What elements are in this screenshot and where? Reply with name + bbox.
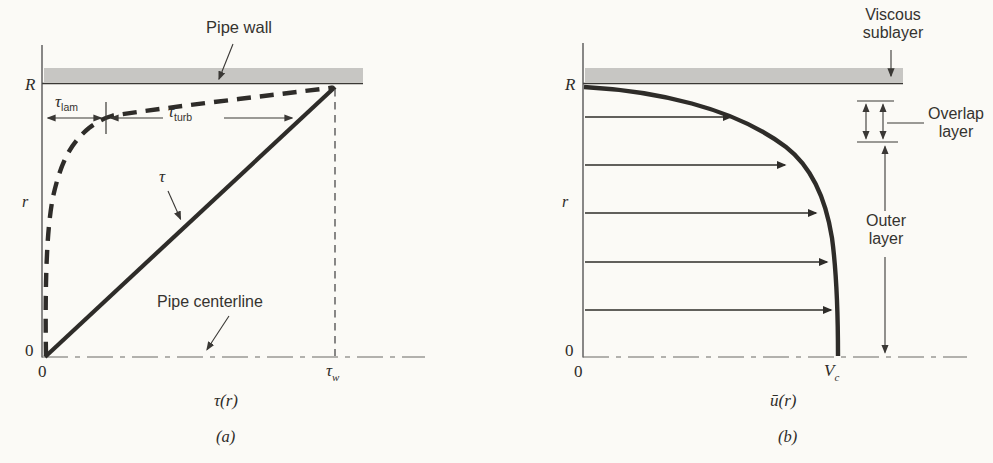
pipe-centerline-pointer-arrow (207, 316, 229, 350)
tau-w-tick-label: τw (326, 361, 339, 380)
pipe-centerline-label: Pipe centerline (157, 293, 263, 311)
y-top-tick-label-b: R (565, 75, 575, 94)
overlap-layer-label: Overlap layer (918, 105, 993, 141)
mean-velocity-profile-curve (584, 87, 838, 356)
y-origin-label-a: 0 (25, 341, 34, 360)
tau-curve-label: τ (159, 167, 165, 186)
tau-turb-label: τturb (168, 102, 192, 121)
y-axis-label-a: r (22, 193, 28, 211)
viscous-sublayer-label: Viscous sublayer (845, 6, 941, 42)
y-origin-label-b: 0 (565, 341, 574, 360)
y-axis-label-b: r (562, 193, 568, 211)
tau-lam-label: τlam (55, 92, 78, 111)
tau-pointer-arrow (168, 191, 181, 219)
x-axis-label-a: τ(r) (214, 391, 238, 410)
caption-a: (a) (216, 428, 235, 446)
v-c-tick-label: Vc (824, 361, 839, 380)
x-axis-label-b: ū(r) (770, 391, 796, 410)
figure-turbulent-pipe-flow: Pipe wall R τlam τturb r τ Pipe centerli… (0, 0, 993, 463)
figure-linework (0, 0, 993, 463)
outer-layer-label: Outer layer (850, 212, 922, 248)
x-origin-label-b: 0 (574, 362, 583, 381)
pipe-wall-band-a (44, 68, 363, 82)
pipe-wall-label: Pipe wall (206, 18, 272, 36)
caption-b: (b) (778, 428, 797, 446)
y-top-tick-label-a: R (25, 75, 35, 94)
x-origin-label-a: 0 (38, 362, 47, 381)
pipe-wall-band-b (585, 68, 903, 82)
